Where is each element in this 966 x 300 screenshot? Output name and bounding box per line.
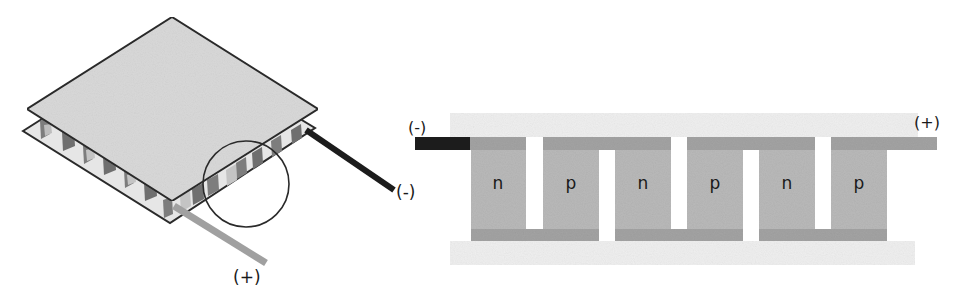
negative-lead-3d: [306, 130, 394, 190]
top-connectors: [470, 137, 937, 150]
negative-terminal-bar: [415, 137, 471, 150]
semiconductor-blocks: [471, 150, 887, 230]
diagram-svg: (-) (+): [0, 0, 966, 300]
peltier-diagram: (-) (+): [0, 0, 966, 300]
block-label-6: p: [854, 173, 865, 193]
cross-section: n p n p n p (-) (+): [408, 113, 940, 265]
positive-terminal-label: (+): [914, 113, 940, 132]
block-label-1: n: [493, 173, 504, 193]
top-plate: [27, 17, 318, 201]
positive-lead-3d: [174, 206, 266, 263]
block-label-4: p: [710, 173, 721, 193]
module-3d: (-) (+): [23, 17, 415, 287]
positive-terminal-label-3d: (+): [233, 267, 261, 287]
block-label-5: n: [782, 173, 793, 193]
negative-terminal-label-3d: (-): [396, 182, 415, 202]
block-label-3: n: [638, 173, 649, 193]
top-ceramic-plate: [450, 113, 918, 137]
bottom-ceramic-plate: [450, 241, 915, 265]
block-label-2: p: [566, 173, 577, 193]
bottom-connectors: [471, 229, 887, 241]
negative-terminal-label: (-): [408, 118, 426, 137]
